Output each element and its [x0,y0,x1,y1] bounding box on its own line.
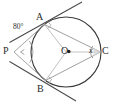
point-label-b: B [37,84,44,94]
geometry-canvas [0,0,116,106]
geometry-figure: A B C O P 80° x [0,0,116,106]
segment-pb [14,52,46,81]
angle-label-x: x [89,47,93,55]
point-label-p: P [3,46,9,56]
angle-tick-icon-p [21,50,25,55]
point-label-a: A [36,12,43,22]
angle-wedge-c [93,47,100,56]
point-label-o: O [61,46,68,56]
point-label-c: C [102,46,109,56]
radius-ob [46,52,67,81]
segment-bc [46,52,101,81]
angle-label-80-degrees: 80° [13,23,24,31]
tangent-line-through-b [10,62,77,102]
